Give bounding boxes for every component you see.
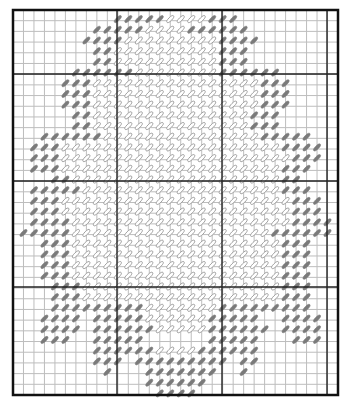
stitch-layer <box>19 15 332 398</box>
needlepoint-chart <box>0 0 353 401</box>
